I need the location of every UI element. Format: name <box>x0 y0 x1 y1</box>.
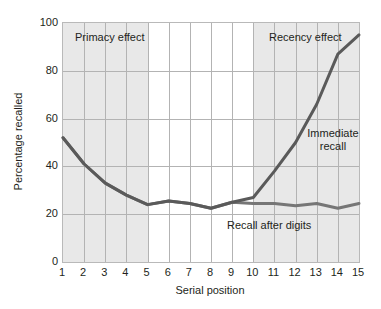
x-axis-tick-labels: 123456789101112131415 <box>62 265 358 281</box>
plot-area: Primacy effect Recency effect Immediate … <box>62 22 360 263</box>
y-axis-tick-labels: 020406080100 <box>28 0 58 309</box>
x-axis-tick: 7 <box>178 265 200 279</box>
x-axis-label: Serial position <box>62 284 358 296</box>
y-axis-label: Percentage recalled <box>10 22 26 261</box>
annotation-recency-effect: Recency effect <box>269 31 342 44</box>
x-axis-tick: 8 <box>199 265 221 279</box>
x-axis-tick: 10 <box>241 265 263 279</box>
x-axis-tick: 4 <box>114 265 136 279</box>
y-axis-tick: 80 <box>32 65 58 75</box>
annotation-recall-after-digits: Recall after digits <box>227 219 311 232</box>
x-axis-tick: 14 <box>326 265 348 279</box>
x-axis-tick: 5 <box>136 265 158 279</box>
y-axis-tick: 100 <box>32 17 58 27</box>
x-axis-tick: 2 <box>72 265 94 279</box>
y-axis-tick: 20 <box>32 208 58 218</box>
serial-position-chart: Percentage recalled 020406080100 Primacy… <box>0 0 381 309</box>
x-axis-tick: 6 <box>157 265 179 279</box>
y-axis-tick: 40 <box>32 160 58 170</box>
x-axis-tick: 12 <box>284 265 306 279</box>
annotation-immediate-recall: Immediate recall <box>301 127 365 153</box>
annotation-primacy-effect: Primacy effect <box>75 31 145 44</box>
x-axis-tick: 9 <box>220 265 242 279</box>
x-axis-tick: 15 <box>347 265 369 279</box>
x-axis-tick: 13 <box>305 265 327 279</box>
line-immediate-recall <box>63 35 359 208</box>
x-axis-tick: 11 <box>262 265 284 279</box>
y-axis-tick: 60 <box>32 113 58 123</box>
x-axis-tick: 3 <box>93 265 115 279</box>
x-axis-tick: 1 <box>51 265 73 279</box>
